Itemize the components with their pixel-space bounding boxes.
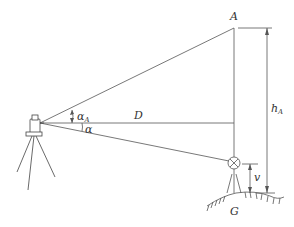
ground-point-label: G bbox=[230, 206, 239, 217]
height-h-label: hA bbox=[271, 103, 283, 116]
distance-label: D bbox=[134, 110, 143, 121]
ground-hatching bbox=[207, 192, 280, 211]
diagram-canvas: A D αA α hA v G bbox=[0, 0, 294, 227]
point-a-label: A bbox=[230, 11, 238, 22]
target-height-label: v bbox=[254, 172, 260, 183]
diagram-lines bbox=[0, 0, 294, 227]
theodolite-icon bbox=[17, 115, 55, 190]
alpha-label: α bbox=[85, 124, 92, 135]
height-h-subscript: A bbox=[278, 108, 283, 116]
alpha-arc bbox=[82, 123, 83, 131]
sight-line-to-target bbox=[40, 123, 229, 161]
